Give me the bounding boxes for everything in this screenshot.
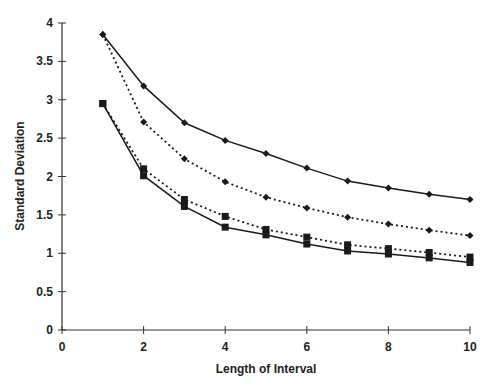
- diamond-marker: [303, 204, 310, 211]
- x-tick-label: 4: [222, 340, 229, 354]
- diamond-marker: [181, 155, 188, 162]
- series-square-solid: [99, 100, 473, 266]
- x-tick-label: 8: [385, 340, 392, 354]
- line-chart: 024681000.511.522.533.54 Length of Inter…: [0, 0, 495, 389]
- square-marker: [426, 254, 433, 261]
- diamond-marker: [303, 165, 310, 172]
- square-marker: [385, 251, 392, 258]
- diamond-marker: [385, 221, 392, 228]
- diamond-marker: [344, 214, 351, 221]
- y-tick-label: 1.5: [36, 208, 53, 222]
- diamond-marker: [467, 196, 474, 203]
- series-group: [99, 31, 473, 266]
- y-tick-label: 1: [46, 246, 53, 260]
- diamond-marker: [467, 232, 474, 239]
- y-axis-title: Standard Deviation: [13, 121, 27, 230]
- series-line: [103, 104, 470, 263]
- y-tick-label: 2.5: [36, 131, 53, 145]
- square-marker: [181, 203, 188, 210]
- series-square-dotted: [99, 100, 473, 261]
- diamond-marker: [344, 178, 351, 185]
- series-line: [103, 35, 470, 200]
- square-marker: [222, 224, 229, 231]
- y-tick-label: 4: [46, 16, 53, 30]
- diamond-marker: [426, 227, 433, 234]
- y-tick-label: 0: [46, 323, 53, 337]
- y-tick-label: 2: [46, 170, 53, 184]
- x-tick-label: 6: [303, 340, 310, 354]
- square-marker: [263, 231, 270, 238]
- x-tick-label: 2: [140, 340, 147, 354]
- diamond-marker: [222, 178, 229, 185]
- square-marker: [467, 259, 474, 266]
- square-marker: [344, 241, 351, 248]
- axes: 024681000.511.522.533.54: [36, 16, 477, 354]
- square-marker: [303, 241, 310, 248]
- square-marker: [140, 172, 147, 179]
- x-axis-title: Length of Interval: [216, 362, 317, 376]
- x-tick-label: 0: [59, 340, 66, 354]
- series-diamond-dotted: [99, 31, 473, 239]
- series-line: [103, 35, 470, 236]
- diamond-marker: [222, 137, 229, 144]
- square-marker: [222, 213, 229, 220]
- diamond-marker: [426, 191, 433, 198]
- x-tick-label: 10: [463, 340, 477, 354]
- square-marker: [344, 247, 351, 254]
- y-tick-label: 3.5: [36, 54, 53, 68]
- diamond-marker: [263, 194, 270, 201]
- square-marker: [303, 234, 310, 241]
- diamond-marker: [385, 185, 392, 192]
- series-line: [103, 104, 470, 258]
- diamond-marker: [263, 150, 270, 157]
- y-tick-label: 3: [46, 93, 53, 107]
- square-marker: [99, 100, 106, 107]
- square-marker: [181, 196, 188, 203]
- y-tick-label: 0.5: [36, 285, 53, 299]
